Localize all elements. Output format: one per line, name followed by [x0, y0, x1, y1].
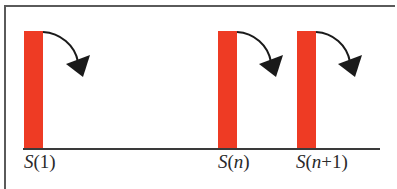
label-arg-rest: +1	[321, 151, 341, 172]
label-arg: 1	[40, 151, 50, 172]
curved-arrow-icon-sn1	[316, 32, 362, 77]
induction-diagram: S(1) S(n) S(n+1)	[0, 0, 397, 189]
curved-arrow-icon-s1	[43, 32, 90, 77]
label-sn: S(n)	[218, 152, 250, 172]
label-symbol: S	[218, 151, 228, 172]
curved-arrow-icon-sn	[237, 32, 283, 77]
label-sn1: S(n+1)	[296, 152, 348, 172]
paren-close: )	[342, 151, 348, 172]
label-arg: n	[234, 151, 244, 172]
label-symbol: S	[24, 151, 34, 172]
label-arg-var: n	[312, 151, 322, 172]
label-symbol: S	[296, 151, 306, 172]
paren-close: )	[49, 151, 55, 172]
paren-close: )	[243, 151, 249, 172]
label-s1: S(1)	[24, 152, 56, 172]
